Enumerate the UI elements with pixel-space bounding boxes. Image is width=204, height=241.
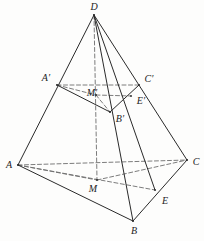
vertex-label-bp: B′: [116, 114, 124, 124]
vertex-label-ap: A′: [42, 73, 50, 83]
edge-D-E: [94, 15, 155, 190]
hidden-edges-group: [18, 15, 187, 190]
vertex-label-d: D: [90, 2, 97, 12]
visible-edges-group: [18, 15, 187, 221]
geometry-figure: DA′C′M′E′B′ACMEB: [0, 0, 204, 241]
edge-Ap-Bp: [57, 85, 110, 112]
edge-M-C: [97, 160, 187, 180]
vertex-label-cp: C′: [145, 74, 154, 84]
edge-A-C: [18, 160, 187, 165]
vertex-dot-bp: [109, 111, 111, 113]
vertex-dot-ap: [56, 84, 58, 86]
vertex-label-ep: E′: [137, 96, 145, 106]
edge-Bp-Cp: [110, 85, 139, 112]
vertex-dot-a: [17, 164, 19, 166]
edge-A-E: [18, 165, 155, 190]
edge-A-B: [18, 165, 133, 221]
edge-D-A: [18, 15, 94, 165]
vertex-label-mp: M′: [87, 88, 98, 98]
edge-Mp-Bp: [96, 95, 110, 112]
vertex-dots-group: [17, 14, 188, 222]
vertex-dot-cp: [138, 84, 140, 86]
vertex-label-m: M: [89, 184, 97, 194]
vertex-dot-m: [96, 179, 98, 181]
geometry-canvas: [0, 0, 204, 241]
edge-B-C: [133, 160, 187, 221]
vertex-dot-c: [186, 159, 188, 161]
vertex-dot-d: [93, 14, 95, 16]
vertex-dot-b: [132, 220, 134, 222]
vertex-label-a: A: [6, 160, 12, 170]
vertex-label-b: B: [131, 226, 137, 236]
vertex-dot-e: [154, 189, 156, 191]
vertex-label-c: C: [193, 157, 200, 167]
vertex-label-e: E: [162, 196, 168, 206]
edge-Mp-Ep: [96, 95, 131, 96]
vertex-dot-ep: [130, 95, 132, 97]
